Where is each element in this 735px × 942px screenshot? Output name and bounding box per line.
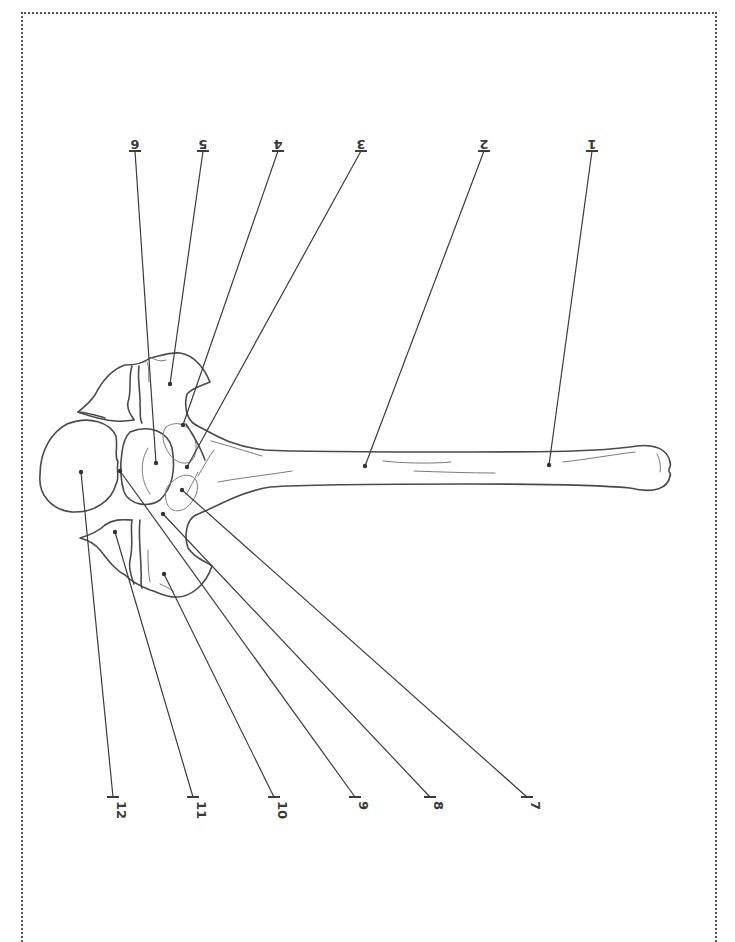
top-labels: 1 2 3 4 5 6 [130, 137, 596, 152]
label-2: 2 [479, 137, 488, 152]
label-11: 11 [194, 801, 209, 819]
label-5: 5 [198, 137, 207, 152]
label-8: 8 [431, 801, 446, 810]
label-1: 1 [587, 137, 596, 152]
pointer-dots [79, 382, 551, 576]
label-3: 3 [356, 137, 365, 152]
label-6: 6 [130, 137, 139, 152]
bottom-leaders [81, 471, 533, 797]
top-leaders [129, 151, 598, 467]
label-7: 7 [528, 801, 543, 810]
label-10: 10 [275, 801, 290, 819]
label-4: 4 [273, 137, 282, 152]
bone-drawing [40, 353, 671, 597]
label-12: 12 [114, 801, 129, 819]
bottom-labels: 7 8 9 10 11 12 [114, 801, 543, 819]
label-9: 9 [356, 801, 371, 810]
